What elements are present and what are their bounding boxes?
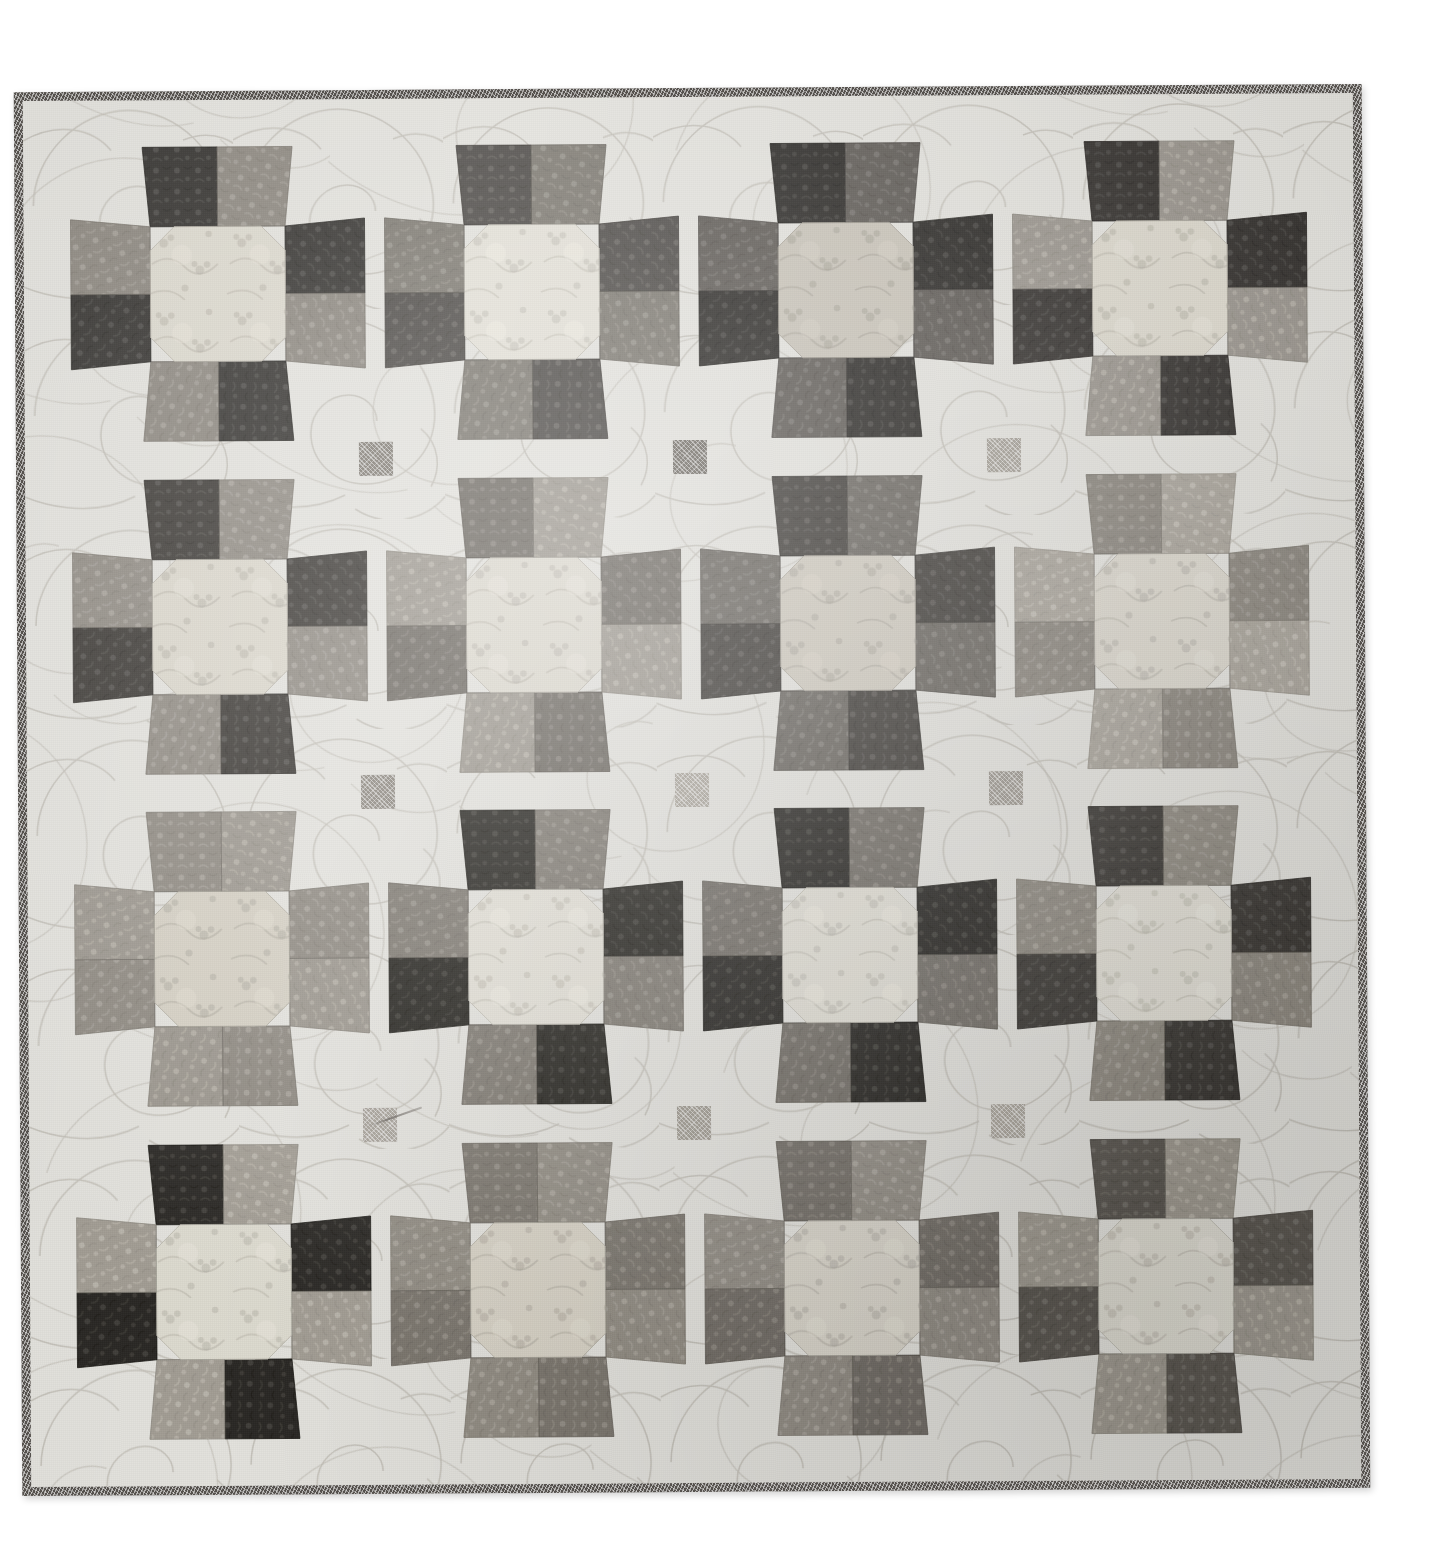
quilt-binding xyxy=(14,84,1371,1496)
cornerstone-square xyxy=(989,771,1023,805)
screenshot-canvas xyxy=(0,0,1446,1568)
cornerstone-square xyxy=(677,1106,711,1140)
cornerstone-fabric-print xyxy=(359,442,393,476)
cornerstone-fabric-print xyxy=(987,438,1021,472)
cornerstone-fabric-print xyxy=(361,775,395,809)
cornerstone-square xyxy=(991,1104,1025,1138)
cornerstone-square xyxy=(361,775,395,809)
cornerstone-fabric-print xyxy=(675,773,709,807)
cornerstone-square xyxy=(673,440,707,474)
quilt-photograph xyxy=(14,84,1371,1496)
cornerstone-fabric-print xyxy=(677,1106,711,1140)
cornerstone-fabric-print xyxy=(989,771,1023,805)
cornerstone-square xyxy=(675,773,709,807)
cornerstone-square xyxy=(359,442,393,476)
cornerstone-square xyxy=(987,438,1021,472)
cornerstone-squares xyxy=(23,93,1361,1487)
cornerstone-fabric-print xyxy=(991,1104,1025,1138)
cornerstone-fabric-print xyxy=(673,440,707,474)
quilt-top xyxy=(23,93,1361,1487)
